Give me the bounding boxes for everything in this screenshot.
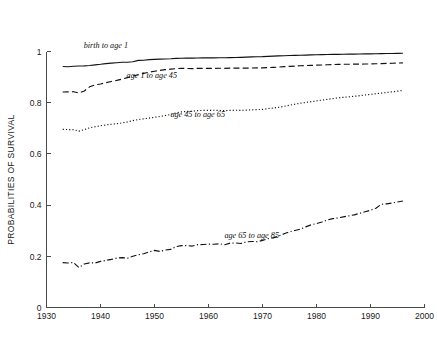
axis-spines [47, 52, 425, 308]
y-tick-label-0-4: 0.4 [30, 200, 42, 210]
y-axis-title-text: PROBABILITIES OF SURVIVAL [6, 114, 16, 244]
chart-canvas: 19301940195019601970198019902000 00.20.4… [0, 0, 437, 338]
y-tick-label-0: 0 [37, 303, 42, 313]
series-line-age-45-to-age-65 [63, 90, 403, 131]
survival-probabilities-chart: 19301940195019601970198019902000 00.20.4… [0, 0, 437, 338]
series-annotations: birth to age 1age 1 to age 45age 45 to a… [84, 41, 279, 239]
axes [47, 52, 425, 308]
x-tick-label-1950: 1950 [145, 311, 164, 321]
y-tick-label-0-8: 0.8 [30, 98, 42, 108]
tick-marks [47, 52, 425, 308]
annotation-age-1-to-age-45: age 1 to age 45 [127, 71, 177, 80]
x-tick-label-1990: 1990 [361, 311, 380, 321]
annotation-age-65-to-age-85: age 65 to age 85 [224, 231, 279, 240]
annotation-birth-to-age-1: birth to age 1 [84, 41, 128, 50]
series-line-age-1-to-age-45 [63, 63, 403, 93]
x-tick-label-1940: 1940 [91, 311, 110, 321]
y-tick-label-0-2: 0.2 [30, 252, 42, 262]
x-tick-label-1980: 1980 [307, 311, 326, 321]
x-tick-label-1970: 1970 [253, 311, 272, 321]
y-axis-title: PROBABILITIES OF SURVIVAL [6, 114, 16, 244]
y-axis-tick-labels: 00.20.40.60.81 [30, 47, 42, 313]
x-tick-label-2000: 2000 [415, 311, 434, 321]
x-tick-label-1960: 1960 [199, 311, 218, 321]
annotation-age-45-to-age-65: age 45 to age 65 [170, 110, 225, 119]
y-tick-label-1: 1 [37, 47, 42, 57]
y-tick-label-0-6: 0.6 [30, 149, 42, 159]
x-axis-tick-labels: 19301940195019601970198019902000 [37, 311, 434, 321]
series-line-birth-to-age-1 [63, 53, 403, 66]
